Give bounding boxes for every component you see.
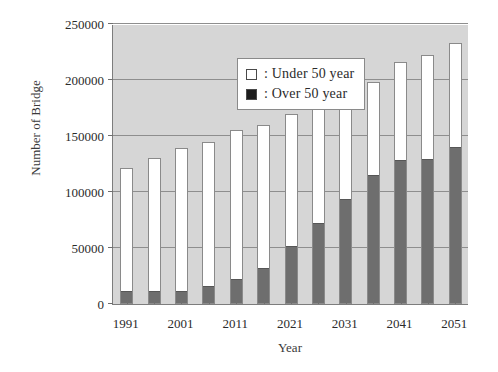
y-tick-label: 100000 — [65, 186, 104, 199]
bar — [394, 62, 407, 304]
y-tick-label: 200000 — [65, 74, 104, 87]
x-tick-label: 2001 — [167, 317, 193, 330]
bar — [312, 104, 325, 304]
gridline — [113, 23, 468, 24]
x-tick-label: 2051 — [441, 317, 467, 330]
x-tick-mark — [181, 299, 182, 304]
bar — [148, 158, 161, 304]
bar — [175, 148, 188, 304]
bar — [120, 168, 133, 304]
bar — [421, 55, 434, 304]
x-tick-mark — [291, 299, 292, 304]
x-tick-mark — [236, 299, 237, 304]
x-tick-label: 2011 — [222, 317, 248, 330]
x-tick-mark — [346, 299, 347, 304]
x-tick-mark — [264, 299, 265, 304]
legend-item-over-50: : Over 50 year — [246, 84, 354, 104]
x-tick-mark — [373, 299, 374, 304]
bar — [367, 82, 380, 304]
y-tick-label: 250000 — [65, 18, 104, 31]
bar — [257, 125, 270, 304]
legend: : Under 50 year : Over 50 year — [237, 58, 365, 110]
legend-label-under-50: : Under 50 year — [264, 66, 354, 82]
legend-label-over-50: : Over 50 year — [264, 86, 347, 102]
x-axis-tick-labels: 1991200120112021203120412051 — [0, 309, 498, 335]
y-tick-mark — [108, 79, 113, 80]
bar-segment-over-50 — [340, 199, 351, 303]
x-tick-mark — [154, 299, 155, 304]
x-tick-mark — [127, 299, 128, 304]
x-tick-mark — [209, 299, 210, 304]
bar — [449, 43, 462, 304]
bar-segment-over-50 — [313, 223, 324, 303]
bar-segment-over-50 — [258, 268, 269, 303]
over-50-swatch-icon — [246, 89, 257, 100]
x-tick-label: 1991 — [113, 317, 139, 330]
x-tick-mark — [318, 299, 319, 304]
bar — [202, 142, 215, 304]
bar — [339, 91, 352, 304]
legend-item-under-50: : Under 50 year — [246, 64, 354, 84]
bar — [230, 130, 243, 304]
y-tick-mark — [108, 23, 113, 24]
y-tick-mark — [108, 135, 113, 136]
bar-segment-over-50 — [286, 246, 297, 303]
y-tick-mark — [108, 191, 113, 192]
bar-segment-over-50 — [368, 175, 379, 303]
y-tick-mark — [108, 303, 113, 304]
under-50-swatch-icon — [246, 69, 257, 80]
x-tick-label: 2021 — [277, 317, 303, 330]
x-tick-mark — [455, 299, 456, 304]
y-tick-mark — [108, 247, 113, 248]
x-tick-label: 2031 — [332, 317, 358, 330]
bar-segment-over-50 — [450, 147, 461, 303]
bar-chart-figure: Number of Bridge 05000010000015000020000… — [0, 0, 498, 372]
x-tick-label: 2041 — [387, 317, 413, 330]
bar-segment-over-50 — [395, 160, 406, 303]
bar-segment-over-50 — [422, 159, 433, 303]
y-tick-label: 150000 — [65, 130, 104, 143]
y-tick-label: 50000 — [72, 242, 105, 255]
x-tick-mark — [428, 299, 429, 304]
plot-area: : Under 50 year : Over 50 year — [112, 25, 468, 305]
x-tick-mark — [401, 299, 402, 304]
x-axis-title: Year — [112, 340, 468, 356]
bar — [285, 114, 298, 304]
